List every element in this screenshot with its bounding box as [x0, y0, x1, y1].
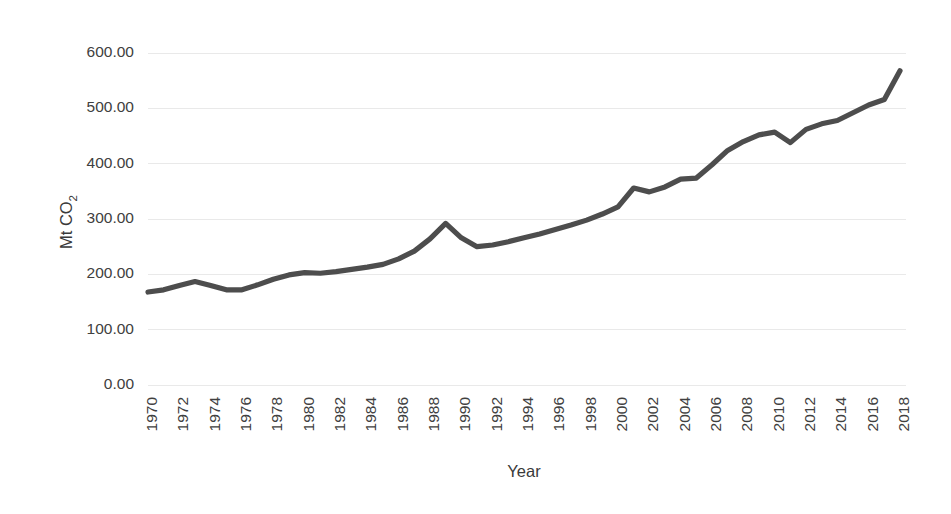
chart-canvas: 600.00500.00400.00300.00200.00100.000.00… [0, 0, 951, 514]
y-axis-tick-label: 200.00 [87, 264, 135, 281]
data-series-group [148, 71, 900, 292]
y-axis-tick-label: 0.00 [104, 375, 135, 392]
x-axis-tick-label: 1982 [331, 397, 348, 431]
y-axis-tick-label: 300.00 [87, 209, 135, 226]
x-axis-tick-label: 1994 [519, 397, 536, 432]
co2-emissions-line [148, 71, 900, 292]
x-axis-tick-label: 1976 [237, 397, 254, 431]
x-axis-tick-label: 1996 [550, 397, 567, 431]
y-axis-title: Mt CO2 [57, 195, 79, 249]
x-axis-tick-label: 1990 [456, 397, 473, 432]
x-axis-tick-label: 2000 [613, 397, 630, 432]
y-axis-tick-label: 100.00 [87, 320, 135, 337]
x-axis-tick-label: 2004 [676, 397, 693, 432]
x-axis-tick-label: 1974 [206, 397, 223, 432]
x-axis-tick-label: 1978 [268, 397, 285, 431]
x-axis-tick-label: 1988 [425, 397, 442, 431]
svg-text:Mt CO2: Mt CO2 [57, 195, 79, 249]
x-axis-tick-label: 1984 [362, 397, 379, 432]
x-axis-tick-label: 2018 [895, 397, 912, 431]
x-axis-tick-label: 2010 [770, 397, 787, 432]
x-axis-tick-label: 1980 [300, 397, 317, 432]
x-axis-tick-label: 2012 [801, 397, 818, 431]
y-axis-tick-labels: 600.00500.00400.00300.00200.00100.000.00 [87, 43, 135, 392]
y-axis-tick-label: 500.00 [87, 98, 135, 115]
x-axis-tick-label: 2006 [707, 397, 724, 431]
y-axis-tick-label: 400.00 [87, 154, 135, 171]
x-axis-tick-label: 2002 [644, 397, 661, 431]
x-axis-tick-label: 2014 [832, 397, 849, 432]
gridlines-group [148, 53, 906, 385]
x-axis-tick-label: 2008 [738, 397, 755, 431]
x-axis-tick-labels: 1970197219741976197819801982198419861988… [143, 397, 912, 432]
x-axis-title: Year [507, 462, 541, 480]
x-axis-tick-label: 1998 [582, 397, 599, 431]
y-axis-tick-label: 600.00 [87, 43, 135, 60]
x-axis-tick-label: 1992 [488, 397, 505, 431]
x-axis-tick-label: 1986 [394, 397, 411, 431]
x-axis-tick-label: 1972 [174, 397, 191, 431]
line-chart-container: 600.00500.00400.00300.00200.00100.000.00… [0, 0, 951, 514]
x-axis-tick-label: 1970 [143, 397, 160, 432]
x-axis-tick-label: 2016 [864, 397, 881, 431]
